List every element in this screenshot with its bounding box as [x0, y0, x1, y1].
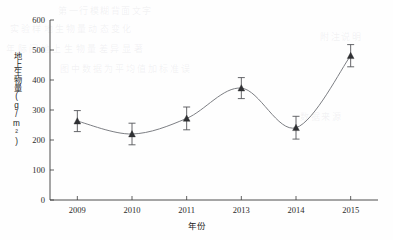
x-tick-label: 2013 [233, 205, 250, 215]
y-tick-label: 100 [32, 165, 45, 175]
y-tick-label: 300 [32, 105, 45, 115]
x-tick-label: 2014 [288, 205, 306, 215]
x-tick-label: 2009 [69, 205, 86, 215]
axes [50, 20, 378, 200]
data-point-marker [293, 124, 300, 130]
data-series-line [77, 56, 350, 134]
x-tick-label: 2010 [124, 205, 141, 215]
y-tick-label: 0 [41, 195, 45, 205]
y-tick-label: 600 [32, 15, 45, 25]
data-point-marker [183, 115, 190, 121]
series-line-path [77, 56, 350, 134]
data-point-marker [74, 118, 81, 124]
x-tick-label: 2015 [342, 205, 359, 215]
y-tick-label: 200 [32, 135, 45, 145]
y-tick-label: 500 [32, 45, 45, 55]
chart-container: 第一行模糊背面文字 实验样地生物量动态变化 年际间地上生物量差异显著 图中数据为… [0, 0, 393, 240]
x-tick-label: 2011 [178, 205, 195, 215]
y-axis-title-text: 地上生物量(g/m²) [12, 52, 21, 146]
x-axis-ticks: 200920102011201320142015 [69, 196, 359, 215]
error-bars [74, 45, 354, 145]
y-axis-title: 地上生物量(g/m²) [6, 52, 20, 146]
data-point-marker [347, 52, 354, 58]
x-axis-title-text: 年份 [188, 221, 206, 231]
y-tick-label: 400 [32, 75, 45, 85]
data-point-markers [74, 52, 354, 137]
x-axis-title: 年份 [0, 219, 393, 231]
y-axis-ticks: 0100200300400500600 [32, 15, 54, 205]
line-chart-plot: 0100200300400500600 20092010201120132014… [0, 0, 393, 240]
